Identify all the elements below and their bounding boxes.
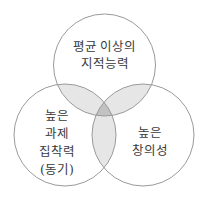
label-line: 높은 xyxy=(45,108,69,123)
label-line: 높은 xyxy=(138,125,162,140)
label-intelligence: 평균 이상의 지적능력 xyxy=(73,39,137,71)
label-task-commitment: 높은 과제 집착력 (동기) xyxy=(39,108,75,177)
label-line: 집착력 xyxy=(39,144,75,159)
label-line: 과제 xyxy=(45,126,69,141)
label-line: 평균 이상의 xyxy=(73,39,137,54)
label-line: (동기) xyxy=(40,162,74,177)
label-line: 지적능력 xyxy=(81,56,129,71)
venn-diagram: 평균 이상의 지적능력 높은 과제 집착력 (동기) 높은 창의성 xyxy=(0,0,208,203)
label-line: 창의성 xyxy=(132,143,168,158)
label-creativity: 높은 창의성 xyxy=(132,125,168,158)
